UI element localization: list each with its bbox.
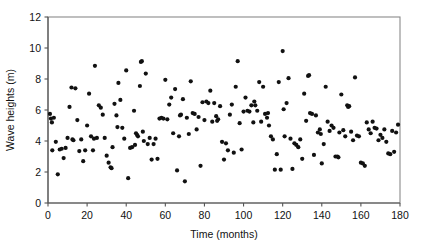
data-point — [369, 131, 373, 135]
data-point — [52, 116, 56, 120]
data-point — [178, 113, 182, 117]
data-point — [215, 119, 219, 123]
y-axis-title: Wave heights (m) — [4, 69, 16, 151]
x-tick-label: 0 — [45, 209, 51, 221]
x-tick-label: 140 — [313, 209, 331, 221]
x-tick-label: 40 — [120, 209, 132, 221]
data-point — [146, 142, 150, 146]
data-point — [198, 164, 202, 168]
data-point — [150, 158, 154, 162]
data-point — [99, 106, 103, 110]
data-point — [238, 121, 242, 125]
data-point — [337, 130, 341, 134]
data-point — [212, 101, 216, 105]
data-point — [394, 130, 398, 134]
data-point — [328, 129, 332, 133]
data-point — [241, 109, 245, 113]
data-point — [91, 148, 95, 152]
data-point — [324, 85, 328, 89]
data-point — [314, 113, 318, 117]
data-point — [319, 132, 323, 136]
data-point — [50, 120, 54, 124]
data-point — [169, 96, 173, 100]
y-tick-label: 12 — [29, 11, 41, 23]
data-point — [92, 137, 96, 141]
data-point — [152, 142, 156, 146]
y-tick-label: 10 — [29, 42, 41, 54]
y-tick-label: 8 — [35, 73, 41, 85]
data-point — [331, 126, 335, 130]
data-point — [109, 166, 113, 170]
data-point — [363, 164, 367, 168]
data-point — [286, 76, 290, 80]
data-point — [187, 132, 191, 136]
data-point — [300, 157, 304, 161]
data-point — [115, 125, 119, 129]
data-point — [353, 75, 357, 79]
data-point — [60, 147, 64, 151]
wave-heights-scatter-figure: 024681012 020406080100120140160180 Time … — [0, 0, 425, 246]
data-point — [339, 92, 343, 96]
data-point — [210, 120, 214, 124]
y-axis: 024681012 — [29, 11, 48, 209]
x-tick-label: 100 — [235, 209, 253, 221]
data-point — [257, 80, 261, 84]
data-point — [226, 148, 230, 152]
data-point — [142, 139, 146, 143]
data-point — [310, 112, 314, 116]
data-point — [341, 128, 345, 132]
data-point — [148, 136, 152, 140]
data-point — [296, 145, 300, 149]
data-point — [365, 120, 369, 124]
data-point — [259, 120, 263, 124]
data-point — [206, 101, 210, 105]
data-point — [183, 179, 187, 183]
data-point — [120, 126, 124, 130]
data-point — [284, 101, 288, 105]
plot-area-border — [48, 17, 400, 203]
data-point — [357, 134, 361, 138]
data-point — [71, 138, 75, 142]
x-tick-label: 120 — [274, 209, 292, 221]
data-point — [177, 134, 181, 138]
data-point — [105, 154, 109, 158]
data-point — [240, 147, 244, 151]
data-point — [336, 155, 340, 159]
data-point — [85, 123, 89, 127]
data-point — [185, 116, 189, 120]
data-point — [48, 112, 52, 116]
data-point — [93, 64, 97, 68]
data-point — [247, 109, 251, 113]
data-point — [118, 98, 122, 102]
data-point — [346, 105, 350, 109]
data-point — [144, 71, 148, 75]
data-point — [65, 136, 69, 140]
data-point — [302, 92, 306, 96]
data-point — [234, 85, 238, 89]
data-point — [392, 150, 396, 154]
plot-frame — [48, 17, 400, 203]
data-point — [101, 113, 105, 117]
data-point — [133, 143, 137, 147]
x-tick-label: 20 — [81, 209, 93, 221]
data-point — [193, 112, 197, 116]
data-point — [273, 168, 277, 172]
data-point — [112, 102, 116, 106]
data-point — [165, 117, 169, 121]
data-point — [277, 80, 281, 84]
data-point — [64, 146, 68, 150]
data-point — [251, 120, 255, 124]
data-point — [283, 134, 287, 138]
data-point — [141, 130, 145, 134]
y-tick-label: 4 — [35, 135, 41, 147]
data-point — [230, 102, 234, 106]
data-point — [275, 152, 279, 156]
data-point — [322, 142, 326, 146]
x-tick-label: 60 — [159, 209, 171, 221]
data-point — [62, 156, 66, 160]
data-point — [163, 78, 167, 82]
data-point — [382, 127, 386, 131]
data-point — [243, 96, 247, 100]
data-point — [73, 86, 77, 90]
chart-canvas: 024681012 020406080100120140160180 Time … — [0, 0, 425, 246]
